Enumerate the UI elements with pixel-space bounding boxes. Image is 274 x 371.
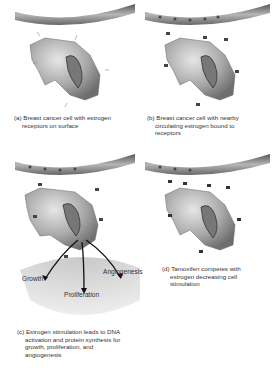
caption-a: (a) Breast cancer cell with estrogen rec… [14,114,111,129]
panel-d-cell [165,188,235,250]
panel-b-cell [165,38,235,100]
caption-c: (c) Estrogen stimulation leads to DNA ac… [17,328,120,358]
outcome-angiogenesis: Angiogenesis [103,268,143,275]
diagram-canvas [0,0,274,371]
outcome-growth: Growth [22,275,43,282]
panel-d-vessel [145,154,270,175]
outcome-proliferation: Proliferation [64,291,99,298]
caption-b: (b) Breast cancer cell with nearby circu… [147,114,239,137]
panel-a-vessel [15,4,135,25]
panel-c-fan [20,257,140,315]
panel-a-cell [30,38,100,100]
panel-c-vessel [15,154,135,175]
caption-d: (d) Tamoxifen competes with estrogen dec… [162,265,241,288]
panel-b-vessel [145,4,270,25]
